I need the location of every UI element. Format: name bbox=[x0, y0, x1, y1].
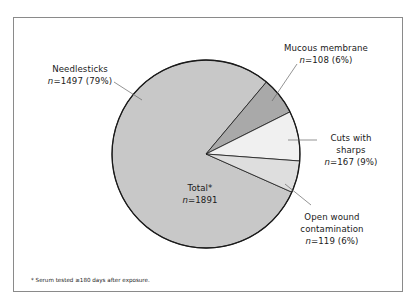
label-open-name-2: contamination bbox=[292, 223, 372, 235]
label-total-name: Total* bbox=[170, 182, 230, 194]
label-needlesticks: Needlesticks n=1497 (79%) bbox=[40, 63, 120, 87]
leader-line-mucous bbox=[272, 64, 297, 101]
label-needlesticks-name: Needlesticks bbox=[40, 63, 120, 75]
label-cuts-name-1: Cuts with bbox=[318, 132, 384, 144]
footnote: * Serum tested ≥180 days after exposure. bbox=[31, 276, 150, 284]
label-mucous-membrane: Mucous membrane n=108 (6%) bbox=[272, 42, 380, 66]
label-total: Total* n=1891 bbox=[170, 182, 230, 206]
label-open-name-1: Open wound bbox=[292, 211, 372, 223]
label-needlesticks-count: n=1497 (79%) bbox=[40, 75, 120, 87]
label-cuts-with-sharps: Cuts with sharps n=167 (9%) bbox=[318, 132, 384, 168]
label-total-count: n=1891 bbox=[170, 194, 230, 206]
label-open-wound: Open wound contamination n=119 (6%) bbox=[292, 211, 372, 247]
label-cuts-count: n=167 (9%) bbox=[318, 156, 384, 168]
label-cuts-name-2: sharps bbox=[318, 144, 384, 156]
label-open-count: n=119 (6%) bbox=[292, 235, 372, 247]
label-mucous-name: Mucous membrane bbox=[272, 42, 380, 54]
label-mucous-count: n=108 (6%) bbox=[272, 54, 380, 66]
